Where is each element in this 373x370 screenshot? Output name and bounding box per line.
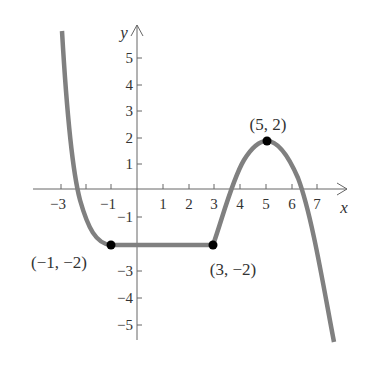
point-label: (−1, −2) (31, 253, 87, 272)
x-tick-labels: −3 −1 1 2 3 4 5 6 7 (50, 196, 321, 212)
y-tick-label: −5 (117, 317, 133, 333)
x-tick-label: 3 (210, 196, 218, 212)
point-marker (209, 241, 218, 250)
y-tick-labels: 5 4 3 2 1 −1 −3 −4 −5 (117, 50, 133, 333)
point-label: (5, 2) (250, 115, 287, 134)
x-axis-title: x (339, 198, 348, 217)
y-axis-title: y (118, 23, 128, 42)
x-ticks (61, 184, 317, 189)
function-curve (62, 31, 334, 342)
y-tick-label: 1 (126, 156, 134, 172)
y-tick-label: 4 (126, 77, 134, 93)
y-tick-label: 5 (126, 50, 134, 66)
x-tick-label: 5 (262, 196, 270, 212)
y-tick-label: −4 (117, 290, 133, 306)
y-tick-label: −3 (117, 263, 133, 279)
x-tick-label: 4 (236, 196, 244, 212)
x-tick-label: −3 (50, 196, 66, 212)
y-tick-label: 3 (126, 103, 134, 119)
function-graph: −3 −1 1 2 3 4 5 6 7 x 5 4 (0, 0, 373, 370)
y-tick-label: 2 (126, 130, 134, 146)
y-ticks (137, 58, 142, 325)
x-tick-label: 2 (185, 196, 193, 212)
point-label: (3, −2) (210, 260, 256, 279)
point-marker (107, 241, 116, 250)
y-axis: 5 4 3 2 1 −1 −3 −4 −5 y (117, 23, 143, 340)
x-tick-label: 7 (313, 196, 321, 212)
x-tick-label: 1 (159, 196, 167, 212)
y-tick-label: −1 (117, 209, 133, 225)
point-marker (263, 137, 272, 146)
x-tick-label: 6 (288, 196, 296, 212)
x-tick-label: −1 (100, 196, 116, 212)
